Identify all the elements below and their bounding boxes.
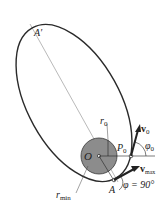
label-phi-90: φ = 90° xyxy=(123,179,154,190)
label-v0: v0 xyxy=(141,123,150,136)
label-rmin: rmin xyxy=(56,189,71,202)
label-o: O xyxy=(84,150,92,162)
label-phi0: φ0 xyxy=(145,140,155,153)
label-p0: P0 xyxy=(116,142,127,155)
orbit-diagram: A′ r0 O P0 v0 φ0 vmax A φ = 90° rmin xyxy=(0,0,167,211)
label-a-prime: A′ xyxy=(33,27,43,38)
label-r0: r0 xyxy=(100,115,108,128)
rmin-leader-line xyxy=(76,166,88,193)
label-a: A xyxy=(108,184,116,195)
label-vmax: vmax xyxy=(140,163,155,175)
orbit-ellipse xyxy=(0,5,156,200)
